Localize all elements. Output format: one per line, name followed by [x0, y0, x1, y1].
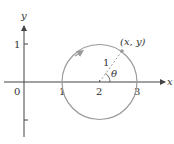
parametric-circle-diagram: y x 1 0 1 2 3 (x, y) 1 θ: [0, 0, 174, 144]
angle-label: θ: [111, 68, 117, 79]
point-marker: [120, 49, 124, 53]
point-label: (x, y): [120, 36, 146, 47]
y-axis-label: y: [20, 10, 27, 21]
x-axis-label: x: [167, 76, 173, 87]
angle-arc: [106, 74, 110, 83]
x-tick-label-2: 2: [96, 86, 102, 97]
y-tick-label-1: 1: [14, 39, 20, 50]
radius-label: 1: [103, 57, 109, 68]
origin-label: 0: [14, 86, 20, 97]
